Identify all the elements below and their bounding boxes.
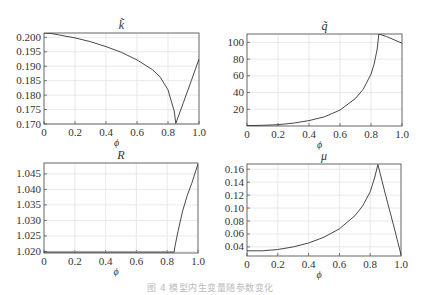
y-tick-label: 0.195: [16, 45, 41, 57]
x-tick-label: 0.2: [68, 126, 82, 138]
subplot-mu: 00.20.40.60.81.00.040.060.080.100.120.14…: [225, 149, 409, 280]
y-tick-label: 100: [228, 36, 245, 48]
y-tick-label: 1.020: [16, 245, 41, 257]
y-tick-label: 1.035: [16, 198, 41, 210]
x-tick-label: 0.8: [364, 128, 378, 140]
x-tick-label: 0.4: [99, 255, 113, 267]
x-tick-label: 0: [244, 258, 250, 270]
subplot-title: k̃: [119, 18, 125, 32]
y-tick-label: 0.16: [225, 163, 245, 175]
y-tick-label: 0.14: [225, 176, 245, 188]
x-tick-label: 0: [244, 128, 250, 140]
y-tick-label: 0.10: [225, 202, 245, 214]
x-tick-label: 0.2: [271, 258, 285, 270]
subplot-k_tilde: 00.20.40.60.81.00.1700.1750.1800.1850.19…: [16, 18, 206, 148]
y-tick-label: 80: [233, 53, 245, 65]
series-line: [247, 165, 401, 255]
x-tick-label: 0.8: [161, 126, 175, 138]
x-tick-label: 0.4: [302, 128, 316, 140]
y-tick-label: 1.025: [16, 229, 41, 241]
x-tick-label: 0.2: [68, 255, 82, 267]
y-tick-label: 0.04: [225, 240, 245, 252]
plot-frame: [44, 163, 198, 253]
y-tick-label: 1.045: [16, 167, 41, 179]
y-tick-label: 0.170: [16, 118, 41, 130]
x-tick-label: 0.6: [333, 128, 347, 140]
subplot-title: R: [116, 148, 125, 162]
y-tick-label: 0.08: [225, 215, 245, 227]
y-tick-label: 0.12: [225, 189, 244, 201]
x-axis-label: ϕ: [316, 269, 321, 280]
x-tick-label: 0.6: [130, 255, 144, 267]
subplot-R: 00.20.40.60.81.01.0201.0251.0301.0351.04…: [16, 148, 205, 277]
x-axis-label: ϕ: [113, 266, 118, 277]
plot-frame: [247, 34, 402, 126]
x-tick-label: 0.6: [130, 126, 144, 138]
x-tick-label: 0.6: [333, 258, 347, 270]
figure-caption: 图 4 模型内生变量随参数变化: [0, 281, 421, 294]
subplot-title: μ: [320, 149, 327, 163]
x-tick-label: 1.0: [192, 126, 206, 138]
x-tick-label: 0.8: [363, 258, 377, 270]
figure-canvas: 00.20.40.60.81.00.1700.1750.1800.1850.19…: [0, 0, 421, 295]
series-line: [44, 164, 198, 252]
y-tick-label: 40: [233, 86, 245, 98]
series-line: [247, 34, 402, 126]
y-tick-label: 0.180: [16, 89, 41, 101]
y-tick-label: 60: [233, 69, 245, 81]
x-tick-label: 1.0: [394, 258, 408, 270]
x-tick-label: 0: [41, 255, 47, 267]
x-tick-label: 0.4: [302, 258, 316, 270]
subplot-title: q̃: [322, 19, 328, 33]
x-tick-label: 0.4: [99, 126, 113, 138]
x-tick-label: 0: [41, 126, 47, 138]
y-tick-label: 0.06: [225, 227, 245, 239]
y-tick-label: 0.200: [16, 31, 41, 43]
plot-frame: [247, 164, 401, 256]
y-tick-label: 0.185: [16, 74, 41, 86]
y-tick-label: 1.040: [16, 183, 41, 195]
subplot-q_tilde: 00.20.40.60.81.020406080100q̃ϕ: [228, 19, 410, 150]
x-tick-label: 1.0: [191, 255, 205, 267]
plot-frame: [44, 33, 199, 124]
x-tick-label: 1.0: [395, 128, 409, 140]
y-tick-label: 1.030: [16, 214, 41, 226]
y-tick-label: 0.175: [16, 103, 41, 115]
y-tick-label: 20: [233, 103, 245, 115]
x-tick-label: 0.8: [160, 255, 174, 267]
x-axis-label: ϕ: [114, 137, 119, 148]
y-tick-label: 0.190: [16, 60, 41, 72]
x-tick-label: 0.2: [271, 128, 285, 140]
